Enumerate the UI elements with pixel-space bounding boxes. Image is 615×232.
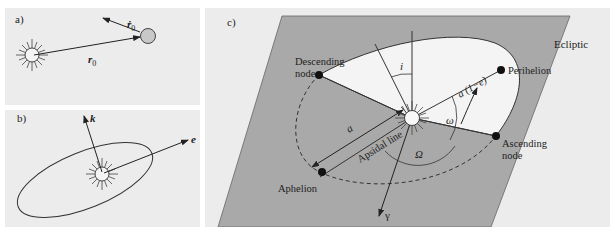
omega-symbol: ω: [446, 114, 454, 126]
sun-icon: [16, 39, 48, 71]
panel-a-initial-conditions: a) r0 ṙ0: [5, 8, 200, 105]
velocity-vector-label: ṙ0: [127, 18, 135, 33]
panel-b-label: b): [17, 112, 27, 125]
position-vector-label: r0: [88, 53, 96, 68]
orbit-ellipse: [8, 127, 162, 227]
descending-node-label-line2: node: [295, 68, 316, 79]
panel-a-label: a): [15, 13, 24, 26]
panel-c-orbital-elements: c): [205, 8, 610, 227]
aphelion-point: [318, 168, 326, 176]
eccentricity-vector-arrow: [104, 140, 188, 173]
orbital-elements-figure: a) r0 ṙ0: [0, 0, 615, 232]
sun-icon: [86, 158, 118, 190]
angular-momentum-label: k: [90, 112, 96, 124]
vernal-equinox-symbol: γ: [384, 209, 390, 221]
descending-node-point: [315, 71, 323, 79]
aphelion-label: Aphelion: [278, 183, 318, 194]
angular-momentum-vector-arrow: [84, 116, 102, 172]
planet-icon: [141, 29, 156, 44]
descending-node-label-line1: Descending: [295, 56, 345, 67]
capital-omega-symbol: Ω: [415, 148, 423, 160]
ascending-node-label-line2: node: [502, 150, 523, 161]
ascending-node-point: [492, 132, 500, 140]
inclination-symbol: i: [400, 60, 403, 72]
panel-c-label: c): [227, 16, 236, 29]
panel-b-orbit-vectors: b) k e: [5, 110, 200, 227]
eccentricity-vector-label: e: [191, 133, 196, 145]
perihelion-label: Perihelion: [508, 65, 552, 76]
position-vector-arrow: [34, 37, 140, 55]
ecliptic-label: Ecliptic: [554, 38, 588, 50]
perihelion-point: [497, 66, 505, 74]
ascending-node-label-line1: Ascending: [502, 138, 548, 149]
